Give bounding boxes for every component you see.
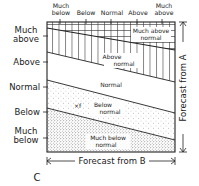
left-label-below: Below xyxy=(14,107,40,117)
zone-label-below-1: Below xyxy=(94,101,112,108)
top-label-much-below-2: below xyxy=(52,9,70,16)
top-label-much-above-2: above xyxy=(155,9,174,16)
zone-label-above-2: normal xyxy=(113,60,134,67)
top-label-above: Above xyxy=(128,9,148,16)
left-label-much-above-2: above xyxy=(13,34,39,44)
zone-label-below-2: normal xyxy=(99,108,120,115)
zone-label-above-1: Above xyxy=(103,53,122,60)
top-label-much-below-1: Much xyxy=(53,2,70,9)
panel-label: C xyxy=(34,172,41,183)
top-label-much-above-1: Much xyxy=(156,2,173,9)
top-label-below: Below xyxy=(77,9,96,16)
left-label-much-below-2: below xyxy=(13,135,38,145)
zone-label-much-below-1: Much below xyxy=(90,134,126,141)
top-label-normal: Normal xyxy=(101,9,124,16)
diagram-canvas: Much below Below Normal Above Much above… xyxy=(0,0,199,186)
zone-label-normal: Normal xyxy=(100,81,122,88)
zone-label-much-above-2: normal xyxy=(140,34,161,41)
zone-label-much-above-1: Much above xyxy=(133,27,170,34)
left-label-above: Above xyxy=(13,57,40,67)
y-axis-title: Forecast from A xyxy=(178,54,188,121)
annotation-mark: ×f xyxy=(74,102,82,109)
x-axis-title: Forecast from B xyxy=(79,156,146,166)
left-label-normal: Normal xyxy=(9,82,40,92)
zone-label-much-below-2: normal xyxy=(95,141,116,148)
